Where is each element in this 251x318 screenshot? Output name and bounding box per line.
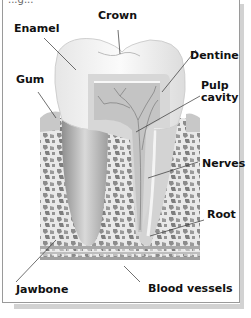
label-blood-vessels: Blood vessels [148, 283, 232, 295]
label-pulp-line2: cavity [201, 92, 238, 104]
label-enamel: Enamel [14, 23, 59, 35]
label-gum: Gum [16, 74, 44, 86]
label-nerves: Nerves [202, 158, 245, 170]
label-root: Root [207, 209, 236, 221]
label-crown: Crown [98, 10, 137, 22]
label-jawbone: Jawbone [16, 284, 68, 296]
label-pulp-cavity: Pulp cavity [201, 80, 238, 104]
blood-vessel-bands [40, 246, 200, 260]
label-dentine: Dentine [190, 50, 239, 62]
